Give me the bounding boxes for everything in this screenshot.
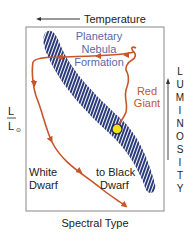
spectral-type-label: Spectral Type: [61, 217, 128, 229]
svg-text:L: L: [8, 105, 14, 117]
label-nebula: Nebula: [82, 43, 118, 55]
label-white-dwarf: Dwarf: [29, 179, 59, 191]
arrow-up-icon: [166, 78, 170, 84]
temperature-axis: Temperature: [36, 13, 146, 25]
label-black-dwarf: Dwarf: [100, 179, 130, 191]
hr-diagram: Temperature Planetary Nebula Formation R…: [0, 0, 193, 232]
label-giant: Giant: [134, 97, 160, 109]
svg-text:M: M: [176, 92, 184, 103]
left-axis-label: L L ⊙: [7, 105, 21, 133]
svg-text:S: S: [177, 144, 184, 155]
svg-text:T: T: [177, 170, 183, 181]
svg-text:I: I: [179, 157, 182, 168]
label-formation: Formation: [74, 56, 124, 68]
temperature-label: Temperature: [84, 13, 146, 25]
arrow-left-icon: [36, 17, 41, 21]
svg-text:L: L: [8, 120, 14, 132]
svg-text:L: L: [177, 66, 183, 77]
svg-text:U: U: [176, 79, 183, 90]
luminosity-axis: L U M I N O S I T Y: [166, 66, 184, 194]
sun-marker: [112, 124, 122, 134]
label-red: Red: [137, 85, 157, 97]
svg-text:Y: Y: [177, 183, 184, 194]
svg-text:N: N: [176, 118, 183, 129]
svg-text:I: I: [179, 105, 182, 116]
label-to-black: to Black: [96, 166, 136, 178]
svg-text:⊙: ⊙: [16, 127, 21, 133]
label-planetary: Planetary: [76, 30, 123, 42]
label-white: White: [29, 166, 57, 178]
svg-text:O: O: [176, 131, 184, 142]
